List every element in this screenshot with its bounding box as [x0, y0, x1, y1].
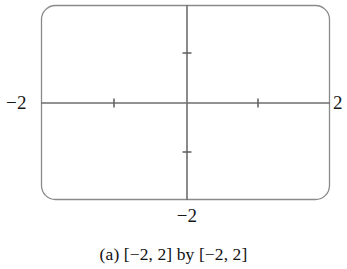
viewing-window-graphic: [0, 0, 347, 232]
figure-caption: (a) [−2, 2] by [−2, 2]: [0, 243, 347, 265]
figure-root: −2 2 −2 (a) [−2, 2] by [−2, 2]: [0, 0, 347, 269]
y-min-label: −2: [157, 206, 217, 225]
x-min-label: −2: [6, 93, 38, 112]
x-max-label: 2: [333, 93, 347, 112]
